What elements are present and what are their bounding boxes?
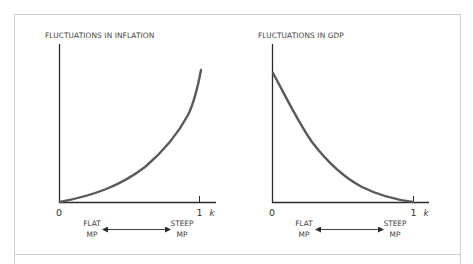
gdp-curve <box>273 73 413 202</box>
steep-mp-label-line2: MP <box>390 230 401 239</box>
panel-title: FLUCTUATIONS IN GDP <box>258 31 344 40</box>
flat-mp-label-line1: FLAT <box>295 219 313 228</box>
x-origin-label: 0 <box>56 207 62 218</box>
flat-mp-label-line1: FLAT <box>83 219 101 228</box>
x-origin-label: 0 <box>269 207 275 218</box>
x-tick-label: 1 <box>410 207 416 218</box>
panel-inflation: FLUCTUATIONS IN INFLATION 0 1 k FLAT MP … <box>45 31 216 239</box>
steep-mp-label-line1: STEEP <box>170 219 194 228</box>
x-tick-label: 1 <box>196 207 202 218</box>
flat-mp-label-line2: MP <box>299 230 310 239</box>
steep-mp-label-line2: MP <box>177 230 188 239</box>
panel-title: FLUCTUATIONS IN INFLATION <box>45 31 154 40</box>
panel-gdp: FLUCTUATIONS IN GDP 0 1 k FLAT MP STEEP … <box>258 31 429 239</box>
x-axis-label: k <box>209 208 215 218</box>
figure: FLUCTUATIONS IN INFLATION 0 1 k FLAT MP … <box>0 0 473 264</box>
steep-mp-label-line1: STEEP <box>383 219 407 228</box>
flat-mp-label-line2: MP <box>87 230 98 239</box>
inflation-curve <box>60 70 201 202</box>
x-axis-label: k <box>423 208 429 218</box>
